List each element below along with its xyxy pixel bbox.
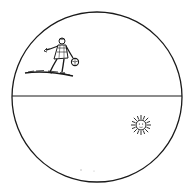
sun-icon [131, 115, 151, 135]
globe-outline [12, 12, 182, 182]
ball-icon [71, 58, 78, 65]
diagram-stage [0, 0, 196, 196]
globe-diagram [0, 0, 196, 196]
